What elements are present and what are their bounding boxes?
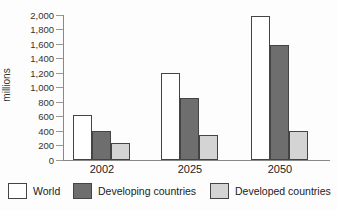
bar-developed-countries-2025 <box>199 135 218 160</box>
y-tick-label: 800 <box>14 97 54 108</box>
y-tick-mark <box>56 131 63 132</box>
y-tick-label: 2,000 <box>14 10 54 21</box>
y-tick-label: 1,800 <box>14 24 54 35</box>
legend-item-developing-countries: Developing countries <box>73 182 196 200</box>
y-tick-label: 1,200 <box>14 68 54 79</box>
y-axis-line <box>63 15 64 160</box>
y-tick-label: 1,400 <box>14 53 54 64</box>
bar-world-2025 <box>161 73 180 160</box>
bar-world-2002 <box>73 115 92 160</box>
legend-label-developing-countries: Developing countries <box>98 182 196 200</box>
legend-swatch-developing-countries <box>73 183 92 199</box>
x-tick-label-2025: 2025 <box>160 163 220 175</box>
y-tick-label: 1,600 <box>14 39 54 50</box>
legend-swatch-developed-countries <box>210 183 229 199</box>
y-tick-mark <box>56 15 63 16</box>
y-tick-mark <box>56 87 63 88</box>
y-tick-mark <box>56 116 63 117</box>
bar-developing-countries-2050 <box>270 45 289 160</box>
legend-item-world: World <box>8 182 60 200</box>
y-tick-mark <box>56 29 63 30</box>
x-tick-label-2050: 2050 <box>250 163 310 175</box>
legend-swatch-world <box>8 183 27 199</box>
y-tick-mark <box>56 44 63 45</box>
legend-item-developed-countries: Developed countries <box>210 182 331 200</box>
y-tick-mark <box>56 160 63 161</box>
legend-label-developed-countries: Developed countries <box>235 182 331 200</box>
bar-developing-countries-2025 <box>180 98 199 160</box>
bar-developed-countries-2002 <box>111 143 130 160</box>
y-tick-label: 200 <box>14 140 54 151</box>
bar-world-2050 <box>251 16 270 160</box>
bar-chart: millions 02004006008001,0001,2001,4001,6… <box>0 0 337 211</box>
y-tick-mark <box>56 73 63 74</box>
y-tick-mark <box>56 102 63 103</box>
y-tick-label: 400 <box>14 126 54 137</box>
y-tick-mark <box>56 145 63 146</box>
x-tick-label-2002: 2002 <box>72 163 132 175</box>
y-tick-label: 0 <box>14 155 54 166</box>
legend-label-world: World <box>33 182 60 200</box>
y-axis-title: millions <box>1 55 15 115</box>
y-tick-label: 1,000 <box>14 82 54 93</box>
y-tick-label: 600 <box>14 111 54 122</box>
bar-developed-countries-2050 <box>289 131 308 160</box>
x-axis-line <box>62 160 330 161</box>
bar-developing-countries-2002 <box>92 131 111 160</box>
y-tick-mark <box>56 58 63 59</box>
